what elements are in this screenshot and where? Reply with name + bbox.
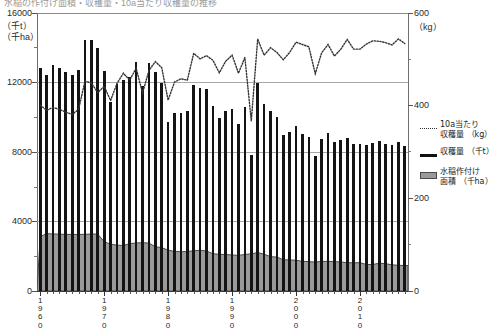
- ylabel-left-8000: 8000: [0, 148, 32, 157]
- xtick-1971: [111, 291, 112, 294]
- xtick-1998: [283, 291, 284, 294]
- xtick-1962: [53, 291, 54, 294]
- xtick-1991: [239, 291, 240, 294]
- legend-label-production: 収穫量 （千t）: [440, 147, 494, 157]
- xtick-1976: [143, 291, 144, 294]
- xtick-2009: [354, 291, 355, 294]
- xtick-1989: [226, 291, 227, 294]
- xlabel-2000: 2000: [292, 297, 300, 329]
- yield-per-10a-series: [37, 13, 408, 291]
- xtick-1964: [66, 291, 67, 294]
- chart-title-cropped: 水稲の作付け面積・収穫量・10a当たり収穫量の推移: [4, 0, 254, 7]
- xtick-1961: [47, 291, 48, 294]
- xtick-1997: [277, 291, 278, 294]
- tick-right-400: [408, 105, 413, 106]
- xtick-1966: [79, 291, 80, 294]
- xtick-2014: [386, 291, 387, 294]
- plot-right-axis: [408, 13, 409, 292]
- ylabel-right-200: 200: [414, 194, 429, 203]
- right-axis-unit: （kg）: [414, 22, 442, 32]
- tick-right-200: [408, 198, 413, 199]
- xtick-2002: [309, 291, 310, 294]
- xtick-2012: [373, 291, 374, 294]
- xtick-1979: [162, 291, 163, 294]
- xlabel-1960: 1960: [36, 297, 44, 329]
- xtick-2001: [303, 291, 304, 294]
- xtick-2004: [322, 291, 323, 294]
- ylabel-right-600: 600: [414, 9, 429, 18]
- xtick-1982: [181, 291, 182, 294]
- chart-legend: 10a当たり 収穫量 （kg） 収穫量 （千t） 水稲作付け 面積 （千ha）: [420, 120, 494, 194]
- xtick-1983: [187, 291, 188, 294]
- legend-label-planted-area: 水稲作付け 面積 （千ha）: [440, 167, 493, 186]
- legend-item-yield-per-10a[interactable]: 10a当たり 収穫量 （kg）: [420, 120, 494, 139]
- left-axis-unit-line1: （千t）: [2, 21, 32, 31]
- xtick-2016: [398, 291, 399, 294]
- tick-right-600: [408, 13, 413, 14]
- chart-root: 水稲の作付け面積・収穫量・10a当たり収穫量の推移 （千t） （千ha） （kg…: [0, 0, 494, 329]
- ylabel-left-4000: 4000: [0, 217, 32, 226]
- xtick-1978: [155, 291, 156, 294]
- xtick-1973: [123, 291, 124, 294]
- xlabel-2010: 2010: [356, 297, 364, 329]
- xtick-1984: [194, 291, 195, 294]
- ylabel-right-400: 400: [414, 101, 429, 110]
- xtick-2015: [392, 291, 393, 294]
- yield-per-10a-path: [40, 39, 405, 121]
- xtick-2005: [328, 291, 329, 294]
- xtick-1985: [200, 291, 201, 294]
- xtick-2008: [347, 291, 348, 294]
- left-axis-unit-line2: （千ha）: [2, 32, 39, 42]
- xtick-2017: [405, 291, 406, 294]
- xtick-1969: [98, 291, 99, 294]
- xtick-1974: [130, 291, 131, 294]
- xtick-2003: [315, 291, 316, 294]
- xlabel-1980: 1980: [164, 297, 172, 329]
- tick-right-minor-300: [408, 151, 411, 152]
- xtick-1996: [271, 291, 272, 294]
- tick-right-0: [408, 291, 413, 292]
- xtick-2011: [366, 291, 367, 294]
- ylabel-right-0: 0: [414, 287, 419, 296]
- xtick-2007: [341, 291, 342, 294]
- ylabel-left-16000: 16000: [0, 9, 32, 18]
- legend-item-planted-area[interactable]: 水稲作付け 面積 （千ha）: [420, 167, 494, 186]
- tick-right-minor-100: [408, 244, 411, 245]
- xtick-2013: [379, 291, 380, 294]
- xtick-1987: [213, 291, 214, 294]
- xtick-2006: [334, 291, 335, 294]
- xtick-1977: [149, 291, 150, 294]
- xtick-1968: [91, 291, 92, 294]
- xtick-1992: [245, 291, 246, 294]
- xlabel-1990: 1990: [228, 297, 236, 329]
- tick-left-0: [32, 291, 37, 292]
- xtick-1981: [175, 291, 176, 294]
- legend-label-yield-per-10a: 10a当たり 収穫量 （kg）: [440, 120, 492, 139]
- legend-item-production[interactable]: 収穫量 （千t）: [420, 147, 494, 159]
- xtick-1965: [72, 291, 73, 294]
- tick-right-minor-500: [408, 59, 411, 60]
- xtick-1986: [207, 291, 208, 294]
- legend-key-dotted-line: [420, 125, 437, 132]
- series-layer: [37, 13, 408, 291]
- ylabel-left-12000: 12000: [0, 78, 32, 87]
- xtick-1988: [219, 291, 220, 294]
- xtick-1972: [117, 291, 118, 294]
- xlabel-1970: 1970: [100, 297, 108, 329]
- legend-key-solid-bar: [420, 152, 437, 159]
- xtick-1963: [59, 291, 60, 294]
- xtick-1975: [136, 291, 137, 294]
- xtick-1967: [85, 291, 86, 294]
- xtick-1995: [264, 291, 265, 294]
- ylabel-left-0: 0: [0, 287, 32, 296]
- legend-key-area-box: [420, 172, 437, 179]
- xtick-1994: [258, 291, 259, 294]
- plot-baseline: [37, 291, 408, 292]
- xtick-1999: [290, 291, 291, 294]
- xtick-1993: [251, 291, 252, 294]
